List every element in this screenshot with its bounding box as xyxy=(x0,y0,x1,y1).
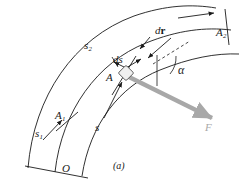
label-arc-s: s xyxy=(95,122,99,133)
label-angle-alpha: α xyxy=(178,64,184,76)
dimension-arrow-s1 xyxy=(43,120,62,140)
figure-caption: (a) xyxy=(113,161,125,171)
figure-drawing xyxy=(0,0,244,184)
tangent-dashed-line xyxy=(153,41,190,64)
label-point-A: A xyxy=(106,72,113,83)
dimension-arrow-s xyxy=(104,82,122,118)
dr-arrow-secondary xyxy=(140,37,150,49)
label-differential-dr: dr xyxy=(155,25,165,36)
figure-container: A A1 A2 s s1 s2 ds dr α O F (a) xyxy=(0,0,244,184)
origin-reference-line xyxy=(25,166,88,178)
force-vector-arrow xyxy=(127,76,212,118)
label-origin-O: O xyxy=(62,163,70,174)
dimension-arrow-s2 xyxy=(178,13,214,18)
outer-path-arc xyxy=(28,6,216,168)
label-arc-s1: s1 xyxy=(35,128,43,141)
label-point-A1: A1 xyxy=(55,110,65,123)
middle-path-arc xyxy=(55,29,231,172)
label-differential-ds: ds xyxy=(113,54,123,65)
label-arc-s2: s2 xyxy=(84,40,92,53)
label-point-A2: A2 xyxy=(216,27,226,40)
label-force-F: F xyxy=(205,122,212,133)
